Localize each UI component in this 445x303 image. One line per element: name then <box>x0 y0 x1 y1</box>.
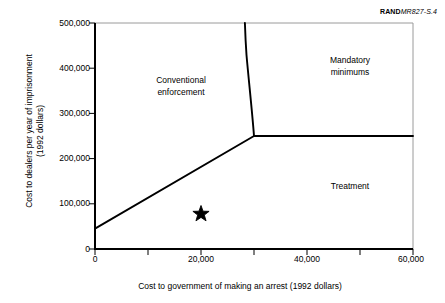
plot-area <box>0 0 445 303</box>
boundary-conventional-treatment <box>95 136 254 229</box>
region-label-mandatory-line1: Mandatory <box>330 55 370 65</box>
region-label-mandatory-minimums: Mandatory minimums <box>295 55 405 78</box>
region-label-conventional-line2: enforcement <box>157 87 204 97</box>
region-label-treatment-line1: Treatment <box>331 181 369 191</box>
region-label-treatment: Treatment <box>295 181 405 193</box>
current-policy-star-marker <box>193 206 209 221</box>
region-label-conventional-enforcement: Conventional enforcement <box>122 75 240 98</box>
region-label-mandatory-line2: minimums <box>331 67 370 77</box>
chart-figure: RANDMR827-S.4 Cost to dealers per year o… <box>0 0 445 303</box>
region-label-conventional-line1: Conventional <box>156 75 206 85</box>
boundary-conventional-mandatory <box>245 23 254 136</box>
